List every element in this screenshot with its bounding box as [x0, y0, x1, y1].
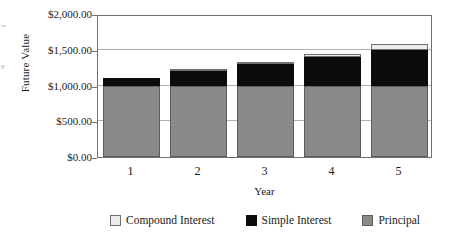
y-axis-tick-label: $2,000.00 [12, 9, 92, 20]
bar-segment-principal [304, 86, 361, 158]
bar-group [304, 14, 361, 157]
bars-container [98, 16, 431, 157]
legend-label: Compound Interest [126, 215, 214, 227]
bar-group [170, 14, 227, 157]
legend-label: Principal [378, 215, 420, 227]
y-axis-tick-label: $1,000.00 [12, 81, 92, 92]
y-axis-tick [92, 158, 97, 159]
bar-group [237, 14, 294, 157]
bar-segment-simple-interest [170, 71, 227, 85]
compound-swatch [110, 215, 121, 226]
bar-segment-principal [371, 86, 428, 158]
y-axis-tick-label: $500.00 [12, 116, 92, 127]
bar-segment-simple-interest [304, 57, 361, 86]
bar-segment-compound-interest [170, 69, 227, 71]
bar-segment-compound-interest [371, 44, 428, 49]
x-axis-tick-label: 4 [298, 165, 365, 177]
x-axis-tick-label: 2 [164, 165, 231, 177]
y-axis-title: Future Value [19, 20, 31, 106]
page-bleed-artifact-top: = [1, 22, 8, 31]
stacked-bar-chart: = e Future Value $0.00$500.00$1,000.00$1… [0, 0, 451, 244]
bar-segment-compound-interest [304, 54, 361, 57]
x-axis-tick-label: 1 [97, 165, 164, 177]
x-axis-tick-label: 3 [231, 165, 298, 177]
bar-segment-compound-interest [237, 62, 294, 64]
plot-area [97, 15, 432, 158]
legend-item: Simple Interest [246, 215, 332, 227]
y-axis-tick-label: $0.00 [12, 152, 92, 163]
legend-item: Compound Interest [110, 215, 214, 227]
bar-group [103, 14, 160, 157]
x-axis-title: Year [97, 185, 432, 197]
principal-swatch [362, 215, 373, 226]
y-axis-tick-label: $1,500.00 [12, 45, 92, 56]
bar-group [371, 14, 428, 157]
bar-segment-principal [237, 86, 294, 158]
legend-label: Simple Interest [262, 215, 332, 227]
bar-segment-principal [103, 86, 160, 158]
bar-segment-principal [170, 86, 227, 158]
bar-segment-simple-interest [237, 64, 294, 85]
x-axis-tick-label: 5 [365, 165, 432, 177]
bar-segment-simple-interest [371, 50, 428, 86]
bar-segment-simple-interest [103, 78, 160, 85]
legend-item: Principal [362, 215, 420, 227]
simple-swatch [246, 215, 257, 226]
chart-legend: Compound InterestSimple InterestPrincipa… [110, 215, 420, 227]
page-bleed-artifact-bottom: e [1, 62, 8, 71]
